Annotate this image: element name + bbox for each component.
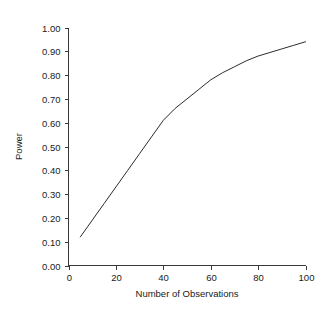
x-tick-label: 80 [253,272,264,283]
y-tick-label: 0.20 [42,213,61,224]
y-tick-label: 0.10 [42,237,61,248]
x-tick-label: 40 [158,272,169,283]
x-tick-label: 100 [299,272,315,283]
y-tick-label: 0.90 [42,46,61,57]
y-tick-label: 0.30 [42,189,61,200]
x-tick-label: 60 [206,272,217,283]
power-curve-chart: 0.000.100.200.300.400.500.600.700.800.90… [0,0,324,324]
x-axis-title: Number of Observations [136,288,239,299]
y-tick-label: 0.00 [42,261,61,272]
y-tick-label: 0.50 [42,142,61,153]
y-tick-label: 0.80 [42,70,61,81]
chart-canvas: 0.000.100.200.300.400.500.600.700.800.90… [0,0,324,324]
y-axis-title: Power [13,133,24,160]
y-tick-label: 0.70 [42,94,61,105]
x-tick-label: 20 [111,272,122,283]
y-tick-label: 0.60 [42,118,61,129]
y-tick-label: 0.40 [42,165,61,176]
x-tick-label: 0 [67,272,72,283]
y-tick-label: 1.00 [42,23,61,34]
